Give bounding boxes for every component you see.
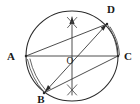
geometry-canvas: A B C D O <box>0 0 140 104</box>
chord-ad <box>26 24 107 56</box>
vertex-dot-d <box>106 23 109 26</box>
point-label-b: B <box>37 93 45 104</box>
point-label-c: C <box>124 50 132 62</box>
vertex-dot-c <box>117 55 120 58</box>
geometry-figure: A B C D O <box>0 0 140 104</box>
point-label-d: D <box>107 3 115 15</box>
vertex-dot-a <box>25 55 28 58</box>
point-label-o: O <box>67 56 74 66</box>
chord-bc <box>44 56 118 93</box>
point-label-a: A <box>7 50 15 62</box>
chord-bd <box>44 24 107 93</box>
